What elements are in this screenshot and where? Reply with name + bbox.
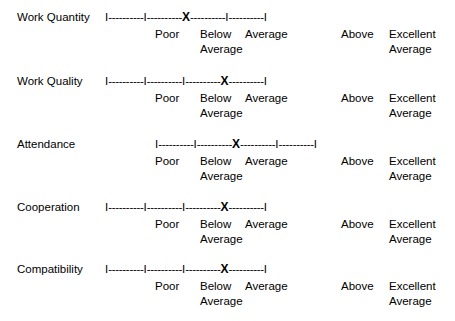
scale-segment-1: ----------: [147, 263, 182, 275]
legend-average: Average: [245, 217, 288, 232]
scale-segment-1: ----------: [147, 75, 182, 87]
scale-segment-3: ----------: [229, 201, 264, 213]
legend-below-average-second: Average: [200, 169, 243, 184]
legend-below-average-second: Average: [200, 232, 243, 247]
legend-average: Average: [245, 154, 288, 169]
legend-poor: Poor: [155, 154, 179, 169]
scale-segment-2: ----------: [240, 138, 275, 150]
scale-segment-3: ----------: [279, 138, 314, 150]
legend-average: Average: [245, 91, 288, 106]
legend-above-average-second: Average: [389, 294, 432, 309]
legend-poor: Poor: [155, 27, 179, 42]
legend-above: Above: [341, 154, 374, 169]
scale-legend: PoorBelowAverageAboveExcellentAverageAve…: [0, 217, 455, 249]
legend-below-average-second: Average: [200, 294, 243, 309]
criterion-label-1: Work Quality: [17, 74, 83, 88]
legend-above: Above: [341, 217, 374, 232]
legend-below-average-second: Average: [200, 42, 243, 57]
scale-segment-2: ----------: [185, 263, 220, 275]
scale-segment-2: ----------: [185, 201, 220, 213]
scale-segment-0: ----------: [108, 11, 143, 23]
legend-below: Below: [200, 91, 231, 106]
legend-above-average-second: Average: [389, 106, 432, 121]
rating-scale-2[interactable]: I----------I----------X----------I------…: [155, 137, 317, 151]
scale-tick-4[interactable]: I: [264, 201, 267, 213]
scale-tick-4[interactable]: I: [264, 75, 267, 87]
legend-average: Average: [245, 279, 288, 294]
legend-above-average-second: Average: [389, 232, 432, 247]
rating-scale-3[interactable]: I----------I----------I----------X------…: [105, 200, 267, 214]
criterion-label-3: Cooperation: [17, 200, 80, 214]
legend-excellent: Excellent: [389, 91, 436, 106]
scale-tick-4[interactable]: I: [314, 138, 317, 150]
rating-mark[interactable]: X: [232, 137, 240, 151]
legend-above-average-second: Average: [389, 169, 432, 184]
scale-segment-0: ----------: [108, 263, 143, 275]
scale-segment-0: ----------: [158, 138, 193, 150]
rating-scale-0[interactable]: I----------I----------X----------I------…: [105, 10, 267, 24]
legend-excellent: Excellent: [389, 27, 436, 42]
scale-segment-3: ----------: [229, 11, 264, 23]
scale-segment-1: ----------: [147, 11, 182, 23]
rating-scale-1[interactable]: I----------I----------I----------X------…: [105, 74, 267, 88]
scale-legend: PoorBelowAverageAboveExcellentAverageAve…: [0, 91, 455, 123]
scale-segment-1: ----------: [147, 201, 182, 213]
legend-below: Below: [200, 27, 231, 42]
scale-segment-0: ----------: [108, 201, 143, 213]
scale-segment-3: ----------: [229, 263, 264, 275]
scale-segment-2: ----------: [185, 75, 220, 87]
scale-legend: PoorBelowAverageAboveExcellentAverageAve…: [0, 154, 455, 186]
legend-excellent: Excellent: [389, 217, 436, 232]
legend-above: Above: [341, 279, 374, 294]
legend-poor: Poor: [155, 279, 179, 294]
legend-below: Below: [200, 279, 231, 294]
rating-mark[interactable]: X: [221, 74, 229, 88]
legend-poor: Poor: [155, 91, 179, 106]
criterion-label-2: Attendance: [17, 137, 75, 151]
rating-mark[interactable]: X: [182, 10, 190, 24]
scale-segment-3: ----------: [229, 75, 264, 87]
scale-tick-4[interactable]: I: [264, 263, 267, 275]
scale-segment-1: ----------: [197, 138, 232, 150]
legend-above: Above: [341, 27, 374, 42]
rating-scale-4[interactable]: I----------I----------I----------X------…: [105, 262, 267, 276]
legend-excellent: Excellent: [389, 154, 436, 169]
criterion-label-4: Compatibility: [17, 262, 83, 276]
legend-poor: Poor: [155, 217, 179, 232]
scale-segment-2: ----------: [190, 11, 225, 23]
scale-legend: PoorBelowAverageAboveExcellentAverageAve…: [0, 27, 455, 59]
criterion-label-0: Work Quantity: [17, 10, 90, 24]
legend-excellent: Excellent: [389, 279, 436, 294]
legend-below: Below: [200, 217, 231, 232]
rating-mark[interactable]: X: [221, 262, 229, 276]
rating-mark[interactable]: X: [221, 200, 229, 214]
legend-below-average-second: Average: [200, 106, 243, 121]
legend-above-average-second: Average: [389, 42, 432, 57]
legend-below: Below: [200, 154, 231, 169]
scale-legend: PoorBelowAverageAboveExcellentAverageAve…: [0, 279, 455, 311]
rating-form: Work QuantityI----------I----------X----…: [0, 0, 455, 321]
legend-above: Above: [341, 91, 374, 106]
scale-tick-4[interactable]: I: [264, 11, 267, 23]
scale-segment-0: ----------: [108, 75, 143, 87]
legend-average: Average: [245, 27, 288, 42]
